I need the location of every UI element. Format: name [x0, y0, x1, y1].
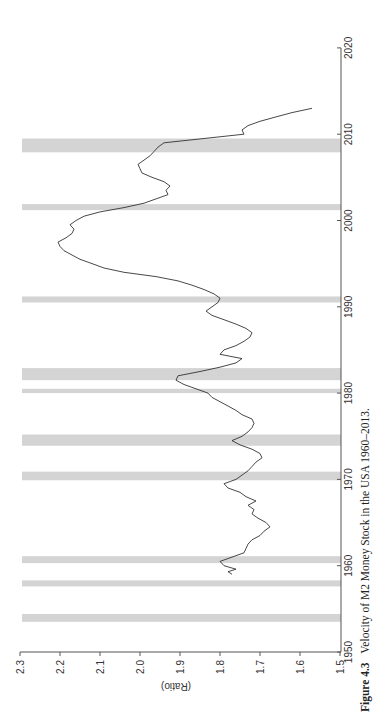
year-tick-label: 1970	[343, 468, 354, 491]
ratio-tick-label: 2.0	[135, 660, 146, 674]
ratio-tick-label: 2.2	[55, 660, 66, 674]
ratio-tick-label: 2.3	[15, 660, 26, 674]
ratio-axis-label: (Ratio)	[161, 681, 191, 692]
recession-band	[22, 614, 341, 622]
caption-label: Figure 4.3	[359, 662, 372, 712]
ratio-tick-label: 1.6	[295, 660, 306, 674]
ratio-tick-label: 1.8	[215, 660, 226, 674]
recession-band	[22, 556, 341, 563]
year-ticks: 19501960197019801990200020102020	[337, 36, 354, 663]
recession-bands	[22, 139, 341, 622]
year-tick-label: 1980	[343, 382, 354, 405]
year-tick-label: 2010	[343, 123, 354, 146]
year-tick-label: 1960	[343, 554, 354, 577]
year-tick-label: 2020	[343, 36, 354, 59]
caption-text: Velocity of M2 Money Stock in the USA 19…	[359, 408, 372, 654]
figure-caption: Figure 4.3 Velocity of M2 Money Stock in…	[359, 408, 372, 712]
year-tick-label: 1950	[343, 640, 354, 663]
svg-text:Figure 4.3 Velocity of M: Figure 4.3 Velocity of M2 Money Stock in…	[359, 408, 372, 712]
m2-velocity-chart: 19501960197019801990200020102020 1.51.61…	[0, 0, 379, 726]
recession-band	[22, 472, 341, 481]
ratio-tick-label: 1.9	[175, 660, 186, 674]
recession-band	[22, 435, 341, 446]
velocity-line	[58, 108, 312, 574]
recession-band	[22, 296, 341, 302]
year-tick-label: 1990	[343, 295, 354, 318]
ratio-tick-label: 1.7	[255, 660, 266, 674]
recession-band	[22, 368, 341, 380]
ratio-tick-label: 2.1	[95, 660, 106, 674]
ratio-tick-label: 1.5	[335, 660, 346, 674]
ratio-ticks: 1.51.61.71.81.92.02.12.22.3	[15, 652, 346, 674]
year-tick-label: 2000	[343, 209, 354, 232]
recession-band	[22, 204, 341, 210]
recession-band	[22, 580, 341, 586]
recession-band	[22, 389, 341, 393]
